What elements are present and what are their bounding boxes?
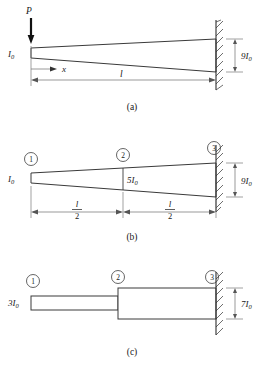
figure-root: P I0 bbox=[0, 0, 276, 371]
x-axis-arrow-a bbox=[31, 66, 57, 71]
tapered-beam-b bbox=[31, 163, 216, 197]
load-arrow-p bbox=[28, 18, 35, 44]
svg-text:1: 1 bbox=[31, 277, 35, 286]
node-marker-2-c: 2 bbox=[112, 271, 125, 284]
panel-b: 1 2 3 I0 5I0 bbox=[7, 142, 253, 244]
beam-diagram: P I0 bbox=[0, 0, 276, 371]
load-label-p: P bbox=[25, 6, 32, 16]
fixed-support-wall-b bbox=[216, 145, 223, 212]
depth-label-c: 7I0 bbox=[241, 299, 253, 310]
left-inertia-label-a: I0 bbox=[7, 49, 15, 60]
svg-text:2: 2 bbox=[121, 151, 125, 160]
panel-c: 1 2 3 3I0 bbox=[7, 271, 253, 359]
svg-text:2: 2 bbox=[168, 211, 172, 221]
panel-a: P I0 bbox=[7, 6, 253, 113]
node-marker-1-c: 1 bbox=[27, 275, 40, 288]
x-label-a: x bbox=[61, 64, 66, 74]
left-inertia-label-c: 3I0 bbox=[7, 298, 20, 309]
fixed-support-wall-a bbox=[216, 20, 223, 90]
node-marker-1-b: 1 bbox=[25, 153, 38, 166]
left-inertia-label-b: I0 bbox=[7, 174, 15, 185]
depth-label-b: 9I0 bbox=[241, 176, 253, 187]
svg-text:2: 2 bbox=[116, 273, 120, 282]
caption-a: (a) bbox=[127, 102, 138, 113]
tapered-beam-a bbox=[31, 39, 216, 72]
node-marker-2-b: 2 bbox=[117, 149, 130, 162]
beam-segment-left-c bbox=[31, 296, 118, 310]
svg-text:2: 2 bbox=[75, 211, 79, 221]
caption-c: (c) bbox=[127, 347, 138, 358]
depth-label-a: 9I0 bbox=[241, 51, 253, 62]
node-marker-3-b: 3 bbox=[208, 142, 221, 155]
segment-length-right-b: l 2 bbox=[165, 199, 175, 221]
svg-text:3: 3 bbox=[210, 273, 214, 282]
segment-length-left-b: l 2 bbox=[72, 199, 82, 221]
length-label-a: l bbox=[120, 69, 123, 79]
svg-text:1: 1 bbox=[29, 155, 33, 164]
svg-text:l: l bbox=[76, 199, 79, 209]
beam-segment-right-c bbox=[118, 288, 216, 319]
caption-b: (b) bbox=[126, 232, 137, 243]
svg-text:l: l bbox=[169, 199, 172, 209]
